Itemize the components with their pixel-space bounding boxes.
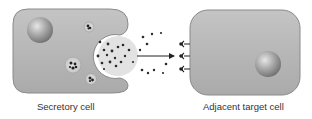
secretory-nucleus <box>27 17 53 43</box>
receptor-icon <box>179 41 190 47</box>
target-cell <box>190 10 300 95</box>
secretory-cell-label: Secretory cell <box>37 101 95 112</box>
receptor-icon <box>179 66 190 72</box>
secretory-vesicle <box>65 57 81 73</box>
receptor-icon <box>179 53 190 59</box>
secretory-cell <box>13 9 138 93</box>
target-nucleus <box>255 51 281 77</box>
target-cell-label: Adjacent target cell <box>203 101 284 112</box>
receptors <box>179 41 190 72</box>
secretory-vesicle <box>84 22 94 32</box>
secretory-vesicle <box>86 74 97 85</box>
target-cell-membrane <box>190 10 300 95</box>
